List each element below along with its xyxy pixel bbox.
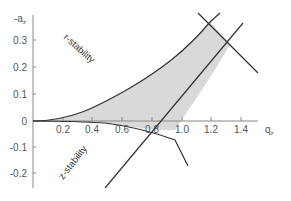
y-axis-title: -az bbox=[14, 13, 26, 25]
x-axis-title: qz bbox=[265, 124, 274, 136]
x-tick-label: 1.2 bbox=[204, 124, 218, 135]
x-tick-label: 0.4 bbox=[85, 124, 99, 135]
y-tick-label: 0.2 bbox=[13, 62, 27, 73]
y-tick-label: -0.2 bbox=[10, 168, 28, 179]
x-tick-label: 0.2 bbox=[56, 124, 70, 135]
stability-diagram: 0.2 0.4 0.6 0.8 1.0 1.2 1.4 0.3 0.2 0.1 … bbox=[0, 0, 291, 201]
y-tick-label: 0 bbox=[21, 116, 27, 127]
r-stability-label: r-stability bbox=[62, 31, 98, 65]
x-tick-label: 1.4 bbox=[234, 124, 248, 135]
y-tick-label: 0.3 bbox=[13, 35, 27, 46]
y-tick-label: 0.1 bbox=[13, 89, 27, 100]
x-tick-label: 1.0 bbox=[175, 124, 189, 135]
y-tick-label: -0.1 bbox=[10, 142, 28, 153]
z-stability-label: z-stability bbox=[56, 143, 89, 181]
